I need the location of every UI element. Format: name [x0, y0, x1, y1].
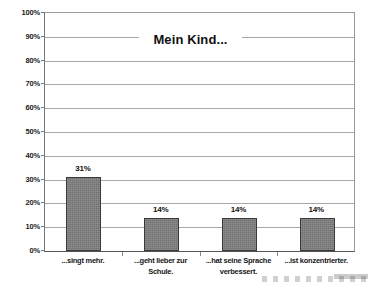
- bar-value-label: 14%: [286, 205, 346, 214]
- x-category-label: ...singt mehr.: [40, 256, 126, 267]
- y-tick-label: 80%: [0, 55, 40, 64]
- x-category-label-line: ...geht lieber zur: [118, 256, 204, 267]
- x-category-label-line: ...hat seine Sprache: [196, 256, 282, 267]
- y-tick-mark: [41, 60, 45, 61]
- y-tick-label: 100%: [0, 8, 40, 17]
- bar: [300, 218, 335, 251]
- y-tick-label: 60%: [0, 103, 40, 112]
- x-tick-mark: [277, 252, 278, 256]
- x-category-label: ...geht lieber zurSchule.: [118, 256, 204, 277]
- y-tick-mark: [41, 12, 45, 13]
- x-category-label-line: ...ist konzentrierter.: [273, 256, 359, 267]
- y-tick-label: 50%: [0, 127, 40, 136]
- x-category-label-line: Schule.: [118, 267, 204, 278]
- y-tick-label: 20%: [0, 198, 40, 207]
- y-tick-mark: [41, 155, 45, 156]
- bar: [222, 218, 257, 251]
- gridline: [45, 61, 354, 62]
- x-tick-mark: [200, 252, 201, 256]
- y-tick-label: 30%: [0, 174, 40, 183]
- plot-area: [44, 12, 355, 252]
- x-category-label-line: ...singt mehr.: [40, 256, 126, 267]
- chart-title: Mein Kind...: [0, 32, 381, 47]
- y-tick-mark: [41, 107, 45, 108]
- y-tick-label: 40%: [0, 150, 40, 159]
- bar-value-label: 14%: [131, 205, 191, 214]
- y-tick-mark: [41, 83, 45, 84]
- bar: [144, 218, 179, 251]
- scan-artifact-block: [334, 274, 368, 279]
- x-category-label: ...hat seine Spracheverbessert.: [196, 256, 282, 277]
- bar-value-label: 14%: [208, 205, 268, 214]
- y-tick-mark: [41, 202, 45, 203]
- y-tick-label: 70%: [0, 79, 40, 88]
- gridline: [45, 132, 354, 133]
- gridline: [45, 156, 354, 157]
- y-tick-label: 10%: [0, 222, 40, 231]
- y-tick-mark: [41, 131, 45, 132]
- x-tick-mark: [122, 252, 123, 256]
- gridline: [45, 108, 354, 109]
- bar: [66, 177, 101, 251]
- y-tick-mark: [41, 179, 45, 180]
- bar-value-label: 31%: [53, 164, 113, 173]
- x-category-label: ...ist konzentrierter.: [273, 256, 359, 267]
- y-tick-mark: [41, 226, 45, 227]
- y-tick-mark: [41, 250, 45, 251]
- gridline: [45, 84, 354, 85]
- bar-chart: 0%10%20%30%40%50%60%70%80%90%100% Mein K…: [0, 0, 381, 286]
- chart-title-text: Mein Kind...: [139, 31, 241, 48]
- y-tick-label: 0%: [0, 246, 40, 255]
